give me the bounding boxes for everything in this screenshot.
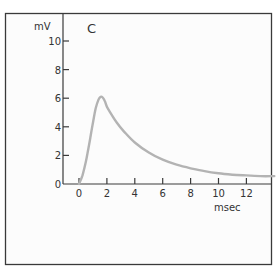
x-tick-label: 0 — [76, 188, 82, 199]
y-axis-unit-label: mV — [34, 21, 51, 32]
x-tick-label: 4 — [132, 188, 138, 199]
y-tick-label: 6 — [55, 93, 61, 104]
chart: 0246810 024681012 mV msec C — [0, 0, 278, 271]
panel-label: C — [87, 21, 96, 36]
x-tick-label: 2 — [104, 188, 110, 199]
x-tick-label: 8 — [187, 188, 193, 199]
x-tick-label: 12 — [240, 188, 253, 199]
y-tick-label: 10 — [48, 36, 61, 47]
y-tick-label: 0 — [55, 179, 61, 190]
y-tick-label: 2 — [55, 150, 61, 161]
x-tick-label: 10 — [212, 188, 225, 199]
y-tick-label: 8 — [55, 65, 61, 76]
x-axis-unit-label: msec — [214, 202, 241, 213]
frame-border — [6, 14, 272, 265]
y-tick-label: 4 — [55, 122, 61, 133]
x-tick-label: 6 — [160, 188, 166, 199]
